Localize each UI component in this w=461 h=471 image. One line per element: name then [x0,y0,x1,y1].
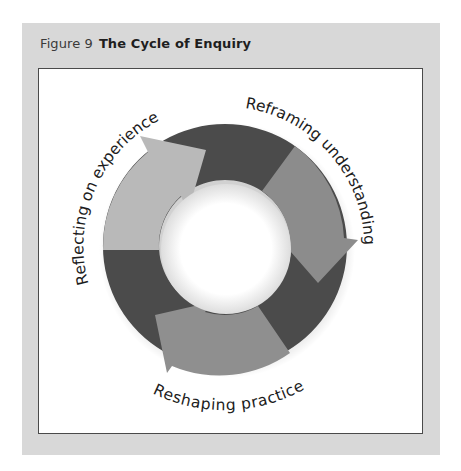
label-reshaping: Reshaping practice [151,377,307,415]
cycle-diagram: Reflecting on experience Reframing under… [0,0,461,471]
ring-center [161,184,291,314]
